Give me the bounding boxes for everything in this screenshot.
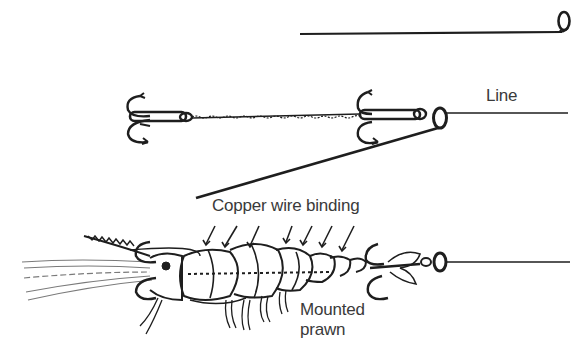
mounted-prawn bbox=[22, 226, 570, 334]
trace-assembly bbox=[128, 90, 569, 198]
mounted-prawn-label-line1: Mounted bbox=[300, 300, 365, 319]
line-label: Line bbox=[486, 86, 517, 105]
needle-eye-icon bbox=[434, 108, 447, 128]
needle-eye-icon bbox=[434, 253, 446, 271]
right-treble-hook-icon bbox=[358, 90, 426, 144]
copper-wire-binding-label: Copper wire binding bbox=[212, 196, 359, 215]
baiting-needle bbox=[300, 12, 570, 34]
left-treble-hook-icon bbox=[128, 93, 193, 144]
mounted-prawn-label-line2: prawn bbox=[300, 320, 345, 339]
needle-eye-icon bbox=[559, 12, 570, 30]
rig-diagram bbox=[0, 0, 587, 361]
binding-arrows bbox=[203, 226, 354, 251]
prawn-feelers-icon bbox=[22, 260, 152, 300]
